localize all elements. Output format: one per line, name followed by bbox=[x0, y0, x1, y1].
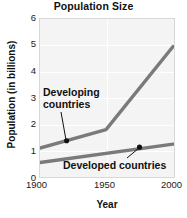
x-axis-title: Year bbox=[39, 199, 175, 210]
y-tick-6: 6 bbox=[2, 13, 36, 23]
annotation-developed-countries: Developed countries bbox=[63, 159, 166, 171]
marker-developing-countries bbox=[64, 138, 69, 143]
y-tick-1: 1 bbox=[2, 146, 36, 156]
x-tick-1900: 1900 bbox=[26, 180, 47, 190]
x-tick-1950: 1950 bbox=[94, 180, 115, 190]
x-tick-2000: 2000 bbox=[161, 180, 182, 190]
annotation-developing-line2: countries bbox=[43, 98, 100, 110]
annotation-developing-countries: Developing countries bbox=[43, 86, 100, 110]
y-tick-4: 4 bbox=[2, 66, 36, 76]
y-tick-3: 3 bbox=[2, 93, 36, 103]
annotation-developing-line1: Developing bbox=[43, 86, 100, 98]
chart-figure: Population Size Population (in billions)… bbox=[0, 0, 187, 218]
y-tick-2: 2 bbox=[2, 119, 36, 129]
marker-developed-countries bbox=[137, 145, 142, 150]
y-tick-5: 5 bbox=[2, 39, 36, 49]
